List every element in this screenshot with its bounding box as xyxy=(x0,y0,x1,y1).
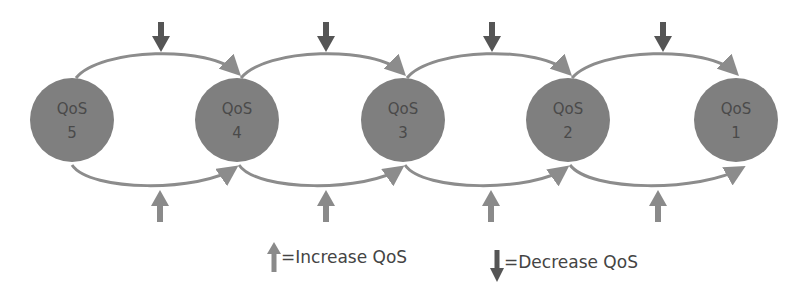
arrow-down-icon xyxy=(317,22,335,52)
node-qos-4: QoS 4 xyxy=(195,78,279,162)
arc-bottom-3-2 xyxy=(405,165,566,186)
node-label: QoS xyxy=(553,100,584,118)
legend-increase-label: =Increase QoS xyxy=(281,247,407,267)
arc-top-3-2 xyxy=(407,54,569,78)
bottom-transition-arcs xyxy=(72,165,742,186)
arc-top-5-4 xyxy=(76,54,238,78)
top-transition-arcs xyxy=(76,54,736,78)
node-level: 1 xyxy=(731,124,741,142)
node-level: 2 xyxy=(563,124,573,142)
arrow-up-icon xyxy=(317,190,335,222)
arrow-up-icon xyxy=(649,190,667,222)
arrow-up-icon xyxy=(151,190,169,222)
arrow-down-icon xyxy=(483,22,501,52)
decrease-arrows xyxy=(152,22,672,52)
arc-top-4-3 xyxy=(241,54,403,78)
arrow-up-icon xyxy=(267,242,281,272)
arrow-down-icon xyxy=(152,22,170,52)
node-qos-3: QoS 3 xyxy=(361,78,445,162)
arc-bottom-4-3 xyxy=(239,165,401,186)
arc-bottom-5-4 xyxy=(72,165,235,186)
legend-decrease: =Decrease QoS xyxy=(490,242,638,282)
arrow-down-icon xyxy=(654,22,672,52)
node-level: 5 xyxy=(67,124,77,142)
node-level: 3 xyxy=(398,124,408,142)
arc-bottom-2-1 xyxy=(570,165,742,186)
node-label: QoS xyxy=(57,100,88,118)
increase-arrows xyxy=(151,190,667,222)
node-label: QoS xyxy=(721,100,752,118)
qos-nodes: QoS 5 QoS 4 QoS 3 QoS 2 QoS 1 xyxy=(30,78,778,162)
node-qos-1: QoS 1 xyxy=(694,78,778,162)
node-level: 4 xyxy=(232,124,242,142)
node-qos-2: QoS 2 xyxy=(526,78,610,162)
node-label: QoS xyxy=(388,100,419,118)
legend-decrease-label: =Decrease QoS xyxy=(504,252,638,272)
node-qos-5: QoS 5 xyxy=(30,78,114,162)
arrow-up-icon xyxy=(482,190,500,222)
node-label: QoS xyxy=(222,100,253,118)
arrow-down-icon xyxy=(490,250,504,282)
arc-top-2-1 xyxy=(572,54,736,78)
legend-increase: =Increase QoS xyxy=(267,242,407,272)
